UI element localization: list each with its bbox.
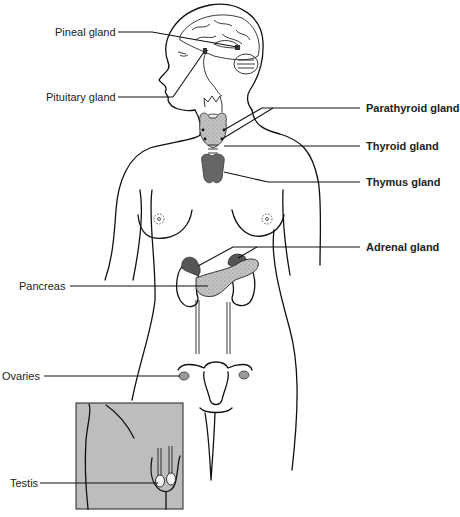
label-testis: Testis — [10, 477, 38, 489]
testis-inset — [76, 403, 183, 509]
label-pituitary-gland: Pituitary gland — [46, 91, 116, 103]
label-parathyroid-gland: Parathyroid gland — [366, 102, 460, 114]
abdominal-glands — [177, 254, 259, 354]
label-pancreas: Pancreas — [19, 280, 65, 292]
label-adrenal-gland: Adrenal gland — [366, 241, 439, 253]
label-thyroid-gland: Thyroid gland — [366, 140, 439, 152]
uterus — [178, 362, 252, 413]
label-pineal-gland: Pineal gland — [55, 26, 116, 38]
label-thymus-gland: Thymus gland — [366, 176, 441, 188]
label-ovaries: Ovaries — [2, 370, 40, 382]
